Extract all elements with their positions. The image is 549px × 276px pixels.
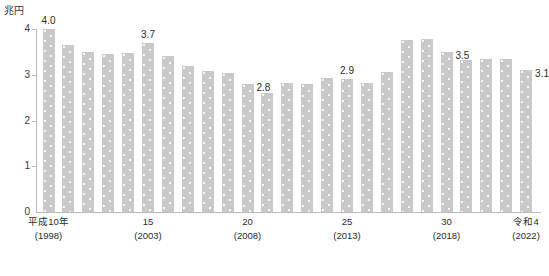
bar [341, 79, 353, 212]
bar [102, 54, 114, 212]
bar [401, 40, 413, 212]
bar [520, 70, 532, 212]
y-axis-tick-label: 4 [24, 24, 30, 34]
x-label-line-primary: 15 [134, 215, 161, 229]
x-axis-category-label: 30(2018) [433, 215, 460, 243]
x-label-line-secondary: (2022) [512, 229, 539, 243]
bar [361, 83, 373, 212]
x-axis-category-label: 令和4(2022) [512, 215, 539, 243]
bar [162, 56, 174, 212]
bar [82, 52, 94, 212]
x-label-line-secondary: (2008) [234, 229, 261, 243]
bar [242, 84, 254, 212]
bar-value-label: 4.0 [42, 15, 56, 26]
bar-value-label: 2.9 [340, 65, 354, 76]
bar [301, 84, 313, 212]
x-axis-category-labels: 平成10年(1998)15(2003)20(2008)25(2013)30(20… [36, 215, 541, 265]
x-label-line-secondary: (2013) [333, 229, 360, 243]
bar [460, 60, 472, 212]
bar-value-label: 3.7 [141, 29, 155, 40]
bar [441, 52, 453, 212]
bar [421, 39, 433, 212]
bar [261, 93, 273, 212]
y-axis-tick-label: 1 [24, 161, 30, 171]
y-axis-unit-label: 兆円 [4, 2, 24, 17]
bar [281, 83, 293, 212]
y-axis-tick-labels: 01234 [0, 29, 30, 212]
bar [142, 43, 154, 212]
x-label-line-primary: 25 [333, 215, 360, 229]
y-axis-tick-label: 2 [24, 116, 30, 126]
x-label-line-primary: 平成10年 [28, 215, 69, 229]
bar [182, 66, 194, 212]
x-label-line-primary: 令和4 [512, 215, 539, 229]
bar [43, 29, 55, 212]
bar [480, 59, 492, 212]
bar [381, 72, 393, 212]
x-axis-line [36, 212, 541, 213]
y-axis-tick-label: 3 [24, 70, 30, 80]
x-axis-category-label: 20(2008) [234, 215, 261, 243]
x-label-line-primary: 20 [234, 215, 261, 229]
x-label-line-secondary: (1998) [28, 229, 69, 243]
x-label-line-secondary: (2003) [134, 229, 161, 243]
x-axis-category-label: 15(2003) [134, 215, 161, 243]
bar [122, 53, 134, 212]
plot-area: 4.03.72.82.93.53.1 [36, 29, 541, 212]
bar [321, 78, 333, 212]
x-label-line-secondary: (2018) [433, 229, 460, 243]
x-label-line-primary: 30 [433, 215, 460, 229]
bar [202, 71, 214, 212]
bar-value-label: 2.8 [257, 82, 271, 93]
x-axis-category-label: 平成10年(1998) [28, 215, 69, 243]
x-axis-category-label: 25(2013) [333, 215, 360, 243]
bar [62, 45, 74, 212]
bar-value-label: 3.1 [535, 68, 549, 79]
bar-value-label: 3.5 [456, 50, 470, 61]
bar [500, 59, 512, 212]
bar [222, 73, 234, 212]
